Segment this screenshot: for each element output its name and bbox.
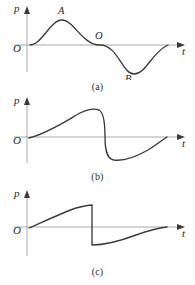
waveform-curve-a	[30, 20, 168, 74]
caption-c: (c)	[0, 266, 195, 277]
chart-c: p t O	[0, 188, 195, 268]
chart-a: p t O A O B	[0, 0, 195, 80]
figure-panel-b: p t O (b)	[0, 95, 195, 188]
figure-panel-c: p t O (c)	[0, 188, 195, 285]
y-axis-arrow-a	[24, 6, 30, 14]
y-axis-label-b: p	[13, 95, 20, 106]
origin-label-c: O	[13, 224, 21, 236]
trough-label-a: B	[125, 73, 132, 80]
y-axis-label-c: p	[13, 188, 20, 199]
waveform-curve-b	[29, 109, 167, 160]
x-axis-label-c: t	[182, 227, 186, 239]
origin-label-b: O	[13, 134, 21, 146]
caption-b: (b)	[0, 171, 195, 182]
x-axis-label-a: t	[182, 45, 186, 57]
chart-b: p t O	[0, 95, 195, 173]
caption-a: (a)	[0, 81, 195, 92]
waveform-curve-c	[29, 205, 167, 245]
zero-crossing-label-a: O	[95, 30, 103, 41]
y-axis-arrow-b	[24, 97, 30, 105]
y-axis-label-a: p	[13, 2, 20, 14]
crest-label-a: A	[57, 5, 65, 16]
y-axis-arrow-c	[24, 190, 30, 198]
figure-panel-a: p t O A O B (a)	[0, 0, 195, 95]
origin-label-a: O	[13, 42, 21, 54]
x-axis-label-b: t	[182, 137, 186, 149]
